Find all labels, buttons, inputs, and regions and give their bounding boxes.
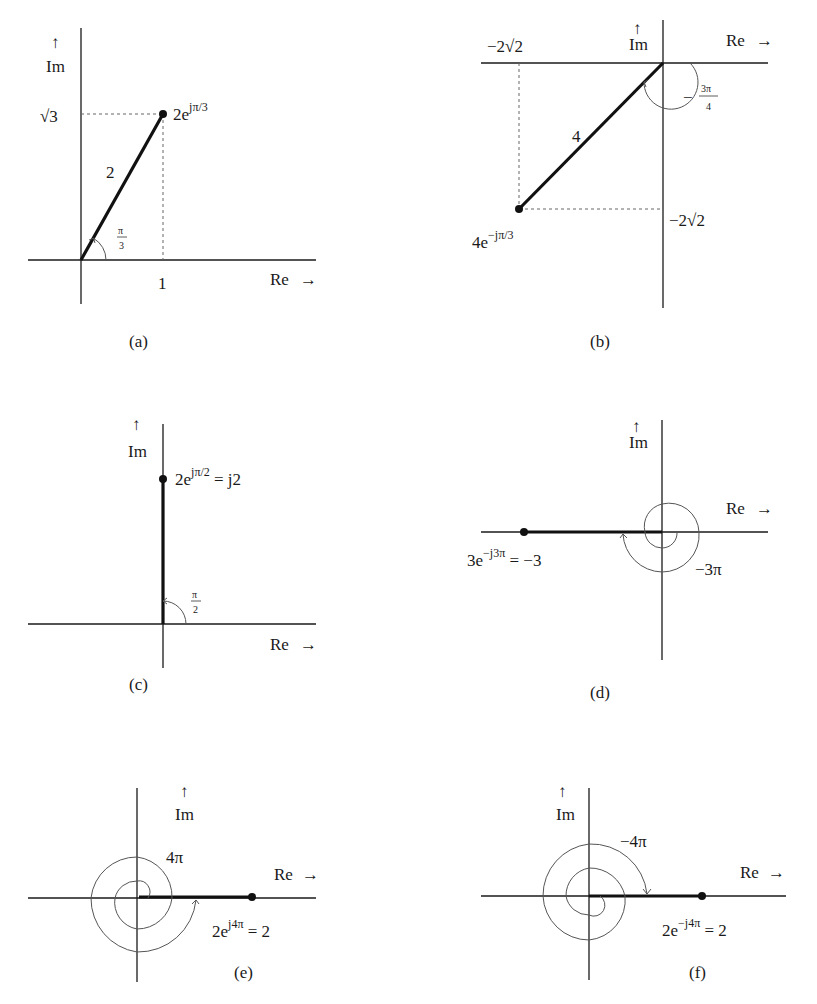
real-axis-label: Re [726,31,745,50]
up-arrow-icon: ↑ [180,782,189,801]
phasor-tip [159,110,167,118]
panel-b: ↑ Im Re → 4e−jπ/3 4 − 3π 4 −2√2 −2√2 (b) [472,19,773,351]
angle-arc [94,238,107,260]
real-tick-label: 1 [158,274,167,293]
angle-label: −3π [695,560,722,579]
panel-caption: (a) [129,332,148,351]
imag-axis-label: Im [556,805,575,824]
angle-spiral [543,844,647,940]
panel-caption: (c) [129,675,148,694]
phasor-tip [159,475,167,483]
point-label: 3e−j3π = −3 [467,546,541,570]
real-axis-label: Re [270,635,289,654]
panel-a: ↑ Im Re → 2ejπ/3 2 π 3 1 √3 (a) [28,28,317,351]
right-arrow-icon: → [756,31,773,50]
real-tick-label: −2√2 [487,37,523,56]
angle-num: π [118,225,123,236]
point-label: 2ejπ/2 = j2 [175,465,241,489]
panel-caption: (f) [689,963,706,982]
phasor-figure: ↑ Im Re → 2ejπ/3 2 π 3 1 √3 (a) ↑ Im Re … [0,0,817,1004]
real-axis-label: Re [726,499,745,518]
magnitude-label: 2 [106,163,115,182]
right-arrow-icon: → [768,863,785,882]
angle-den: 4 [706,101,711,112]
panel-caption: (b) [590,332,610,351]
magnitude-label: 4 [572,127,581,146]
point-label: 4e−jπ/3 [472,228,514,252]
real-axis-label: Re [270,270,289,289]
angle-label: −4π [620,832,647,851]
phasor-tip [698,892,706,900]
angle-spiral [91,857,196,952]
point-label: 2e−j4π = 2 [662,916,727,940]
angle-num: π [192,589,197,600]
panel-caption: (e) [234,963,253,982]
phasor-tip [520,528,528,536]
panel-d: ↑ Im Re → 3e−j3π = −3 −3π (d) [467,417,773,702]
angle-sign: − [683,88,693,107]
panel-caption: (d) [590,683,610,702]
angle-num: 3π [701,83,711,94]
right-arrow-icon: → [756,499,773,518]
up-arrow-icon: ↑ [132,415,141,434]
imag-axis-label: Im [629,433,648,452]
panel-f: ↑ Im Re → 2e−j4π = 2 −4π (f) [481,782,786,982]
phasor-tip [248,893,256,901]
up-arrow-icon: ↑ [51,33,60,52]
angle-label: 4π [166,848,184,867]
phasor-tip [515,205,523,213]
right-arrow-icon: → [302,865,319,884]
right-arrow-icon: → [300,270,317,289]
imag-axis-label: Im [128,442,147,461]
phasor-line [519,63,663,209]
angle-arc [163,601,186,624]
angle-den: 2 [193,604,198,615]
point-label: 2ejπ/3 [173,100,208,124]
panel-c: ↑ Im Re → 2ejπ/2 = j2 π 2 (c) [28,415,317,694]
angle-spiral [623,503,699,572]
panel-e: ↑ Im Re → 2ej4π = 2 4π (e) [28,782,319,982]
imag-axis-label: Im [46,57,65,76]
real-axis-label: Re [740,863,759,882]
point-label: 2ej4π = 2 [212,917,270,941]
real-axis-label: Re [274,865,293,884]
imag-axis-label: Im [175,805,194,824]
imag-tick-label: √3 [40,107,58,126]
imag-axis-label: Im [629,35,648,54]
right-arrow-icon: → [300,635,317,654]
angle-den: 3 [119,240,124,251]
up-arrow-icon: ↑ [558,782,567,801]
imag-tick-label: −2√2 [669,211,705,230]
